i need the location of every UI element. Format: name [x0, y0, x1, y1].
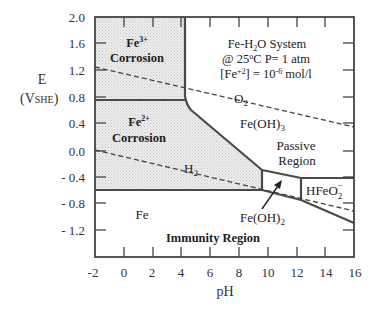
- x-tick-label: -2: [88, 265, 99, 280]
- passive-label: Passive: [277, 138, 316, 153]
- hfeo2-label: HFeO2−: [306, 180, 342, 201]
- x-tick-label: 8: [236, 265, 243, 280]
- y-axis-unit: (VSHE): [20, 91, 59, 107]
- y-tick-label: - 0.4: [61, 170, 85, 185]
- y-tick-label: - 0.8: [61, 196, 85, 211]
- x-tick-label: 4: [178, 265, 185, 280]
- x-tick-label: 16: [349, 265, 363, 280]
- o2-label: O2: [234, 91, 248, 108]
- y-tick-label: - 1.2: [61, 223, 85, 238]
- x-axis-title: pH: [216, 284, 233, 299]
- x-tick-label: 6: [207, 265, 214, 280]
- x-tick-label: 2: [149, 265, 156, 280]
- fe2-corrosion-label: Corrosion: [112, 131, 166, 145]
- info-concentration: [Fe+2] = 10-6 mol/l: [220, 67, 312, 81]
- x-tick-label: 12: [291, 265, 304, 280]
- fe3-corrosion-label: Corrosion: [110, 51, 164, 65]
- x-tick-label: 14: [320, 265, 334, 280]
- y-tick-labels: 2.0 1.6 1.2 0.8 0.4 0.0 - 0.4 - 0.8 - 1.…: [61, 10, 85, 238]
- y-tick-label: 0.4: [69, 116, 86, 131]
- feoh2-fe-boundary: [262, 190, 301, 200]
- y-tick-label: 0.8: [69, 90, 85, 105]
- y-tick-label: 1.2: [69, 63, 85, 78]
- fe-label: Fe: [136, 207, 149, 222]
- feoh3-feoh2-boundary: [262, 170, 301, 178]
- feoh2-label: Fe(OH)2: [240, 210, 285, 227]
- x-tick-label: 10: [262, 265, 275, 280]
- x-tick-labels: -2 0 2 4 6 8 10 12 14 16: [88, 265, 362, 280]
- y-axis-title: E: [38, 72, 47, 87]
- region-label: Region: [278, 153, 316, 168]
- info-system: Fe-H2O System: [228, 37, 307, 53]
- info-conditions: @ 25oC P= 1 atm: [222, 52, 310, 66]
- feoh3-label: Fe(OH)3: [240, 116, 285, 133]
- x-tick-label: 0: [121, 265, 128, 280]
- pourbaix-diagram: 2.0 1.6 1.2 0.8 0.4 0.0 - 0.4 - 0.8 - 1.…: [0, 0, 375, 313]
- immunity-region-label: Immunity Region: [166, 231, 260, 245]
- y-tick-label: 1.6: [69, 36, 86, 51]
- y-tick-label: 2.0: [69, 10, 85, 25]
- y-tick-label: 0.0: [69, 144, 85, 159]
